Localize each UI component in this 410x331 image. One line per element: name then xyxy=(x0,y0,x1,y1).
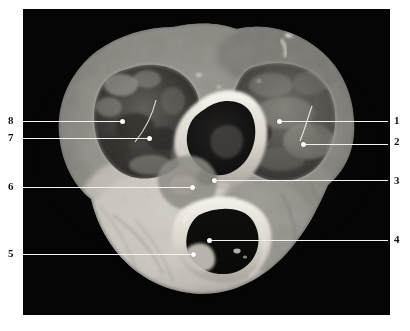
leader-dot-3 xyxy=(212,178,217,183)
leader-line-5 xyxy=(22,254,191,255)
leader-dot-7 xyxy=(147,136,152,141)
leader-dot-1 xyxy=(277,119,282,124)
leader-line-6 xyxy=(22,187,190,188)
label-number-8[interactable]: 8 xyxy=(8,115,20,126)
specimen-image xyxy=(23,9,390,315)
label-number-3[interactable]: 3 xyxy=(394,175,406,186)
leader-line-1 xyxy=(281,121,388,122)
specimen-figure: 8 7 6 5 1 2 3 4 xyxy=(0,0,410,331)
leader-dot-4 xyxy=(207,238,212,243)
leader-line-7 xyxy=(22,138,147,139)
label-number-4[interactable]: 4 xyxy=(394,234,406,245)
label-number-2[interactable]: 2 xyxy=(394,136,406,147)
leader-dot-2 xyxy=(301,142,306,147)
label-number-5[interactable]: 5 xyxy=(8,248,20,259)
label-number-1[interactable]: 1 xyxy=(394,115,406,126)
photo-plate xyxy=(23,9,390,315)
leader-line-3 xyxy=(216,180,388,181)
specimen-body xyxy=(23,9,390,315)
leader-dot-5 xyxy=(191,252,196,257)
specimen-svg xyxy=(23,9,390,315)
figure-caption xyxy=(0,317,410,329)
label-number-6[interactable]: 6 xyxy=(8,181,20,192)
leader-line-4 xyxy=(211,240,388,241)
leader-dot-6 xyxy=(190,185,195,190)
leader-line-2 xyxy=(305,144,388,145)
label-number-7[interactable]: 7 xyxy=(8,132,20,143)
leader-line-8 xyxy=(22,121,120,122)
leader-dot-8 xyxy=(120,119,125,124)
